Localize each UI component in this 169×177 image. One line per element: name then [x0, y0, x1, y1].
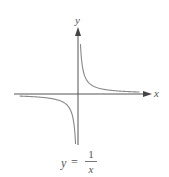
curve-positive-branch [80, 44, 139, 92]
curve-negative-branch [20, 96, 76, 144]
fraction-bar [85, 161, 97, 162]
equation-numerator: 1 [85, 148, 97, 160]
y-axis-label: y [75, 15, 80, 26]
equation-label: y = 1 x [55, 148, 105, 176]
equation-fraction: 1 x [85, 148, 97, 175]
equation-equals: = [71, 155, 78, 170]
equation-lhs: y [61, 156, 66, 171]
equation-denominator: x [85, 163, 97, 175]
x-axis-arrow-icon [143, 91, 152, 97]
x-axis-label: x [154, 88, 159, 99]
y-axis-arrow-icon [75, 27, 81, 36]
